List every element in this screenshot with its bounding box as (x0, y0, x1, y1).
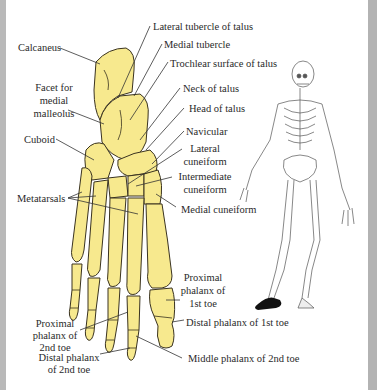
shoe-icon (255, 298, 281, 310)
label-distal-2nd-line2: of 2nd toe (36, 364, 102, 375)
label-proximal-phalanx-1st: Proximal phalanx of 1st toe (178, 272, 228, 309)
label-intermediate-cuneiform: Intermediate cuneiform (174, 171, 236, 195)
label-lateral-tubercle: Lateral tubercle of talus (153, 21, 253, 32)
label-intermediate-cuneiform-line1: Intermediate (174, 171, 236, 182)
label-proximal-1st-line3: 1st toe (178, 298, 228, 309)
label-lateral-cuneiform-line2: cuneiform (180, 156, 230, 167)
label-calcaneus: Calcaneus (18, 42, 61, 53)
skeleton-figure (240, 61, 354, 308)
toe-4-phalanges (85, 278, 100, 340)
label-medial-cuneiform: Medial cuneiform (181, 204, 257, 215)
label-facet-line3: malleolus (24, 108, 84, 119)
label-trochlear-surface: Trochlear surface of talus (170, 58, 277, 69)
frame-border-right (368, 0, 377, 390)
label-lateral-cuneiform: Lateral cuneiform (180, 143, 230, 167)
label-proximal-2nd-line2: phalanx of (30, 330, 80, 341)
label-lateral-cuneiform-line1: Lateral (180, 143, 230, 154)
label-proximal-phalanx-2nd: Proximal phalanx of 2nd toe (30, 318, 80, 353)
label-distal-phalanx-2nd: Distal phalanx of 2nd toe (36, 352, 102, 375)
label-distal-phalanx-1st: Distal phalanx of 1st toe (186, 317, 289, 328)
label-middle-phalanx-2nd: Middle phalanx of 2nd toe (188, 353, 299, 364)
label-cuboid: Cuboid (24, 134, 55, 145)
label-facet-line2: medial (24, 95, 84, 106)
label-facet-line1: Facet for (24, 82, 84, 93)
foot-anatomy-diagram: Lateral tubercle of talus Calcaneus Medi… (0, 0, 377, 390)
label-head-of-talus: Head of talus (189, 103, 245, 114)
toe-5-phalanges (69, 264, 82, 320)
frame-border-left (0, 0, 6, 390)
lateral-cuneiform-bone (108, 176, 128, 198)
label-neck-of-talus: Neck of talus (183, 83, 239, 94)
metatarsal-2 (127, 198, 144, 295)
toe-2-phalanges (127, 296, 140, 360)
label-proximal-1st-line2: phalanx of (178, 285, 228, 296)
medial-cuneiform-bone (144, 170, 162, 204)
label-intermediate-cuneiform-line2: cuneiform (174, 184, 236, 195)
label-metatarsals: Metatarsals (17, 193, 65, 204)
label-medial-tubercle: Medial tubercle (164, 39, 230, 50)
label-proximal-1st-line1: Proximal (178, 272, 228, 283)
label-navicular: Navicular (186, 126, 227, 137)
foot-bones (69, 48, 174, 360)
metatarsal-3 (107, 198, 126, 287)
label-proximal-2nd-line1: Proximal (30, 318, 80, 329)
label-distal-2nd-line1: Distal phalanx (36, 352, 102, 363)
label-facet-medial-malleolus: Facet for medial malleolus (24, 82, 84, 119)
metatarsal-1 (146, 204, 172, 288)
